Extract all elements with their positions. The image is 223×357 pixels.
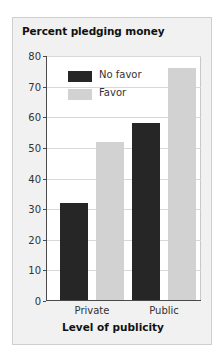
y-axis-label: 80 (28, 51, 41, 62)
y-axis-label: 0 (35, 296, 41, 307)
chart-title: Percent pledging money (22, 25, 164, 37)
legend-label: No favor (99, 69, 142, 80)
bar-public-no-favor (132, 123, 160, 301)
x-axis-title: Level of publicity (13, 321, 213, 333)
y-tick-mark (43, 301, 46, 302)
y-axis-label: 10 (28, 265, 41, 276)
chart-figure: Percent pledging money 01020304050607080… (0, 0, 223, 357)
y-axis-label: 20 (28, 234, 41, 245)
y-axis-label: 60 (28, 112, 41, 123)
bar-public-favor (168, 68, 196, 301)
chart-panel: Percent pledging money 01020304050607080… (12, 17, 212, 345)
gridline (46, 56, 201, 57)
x-axis-category-label: Private (75, 305, 110, 316)
plot-area: 01020304050607080 PrivatePublic No favor… (46, 56, 201, 301)
bar-private-no-favor (60, 203, 88, 301)
legend-label: Favor (99, 87, 126, 98)
y-axis-line (46, 56, 47, 301)
legend-swatch-favor (68, 89, 92, 100)
y-axis-label: 70 (28, 81, 41, 92)
bar-private-favor (96, 142, 124, 301)
y-axis-label: 50 (28, 142, 41, 153)
x-axis-line (46, 300, 201, 301)
x-axis-category-label: Public (149, 305, 179, 316)
legend-swatch-no-favor (68, 71, 92, 82)
y-axis-label: 40 (28, 173, 41, 184)
y-axis-label: 30 (28, 204, 41, 215)
